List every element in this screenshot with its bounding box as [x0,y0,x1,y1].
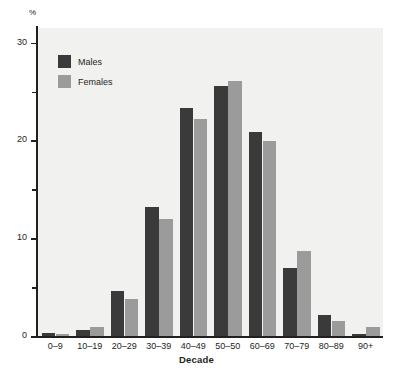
x-axis-tick-labels: 0–910–1920–2930–3940–4950–5060–6970–7980… [38,340,383,354]
legend: Males Females [58,53,138,93]
bar-males-30_39 [145,207,159,336]
y-axis-minor-tick-5 [32,287,37,288]
x-axis-line [36,336,383,338]
bar-group [352,28,380,336]
x-axis-tick-label: 50–50 [211,340,246,352]
legend-label-females: Females [78,77,113,87]
y-axis-tick-10: 10 [31,238,38,240]
bar-group [145,28,173,336]
y-axis-tick-label-30: 30 [17,37,27,48]
legend-swatch-females-icon [58,75,71,88]
bar-females-10_19 [90,327,104,336]
y-axis-tick-label-20: 20 [17,134,27,145]
y-axis-tick-label-10: 10 [17,232,27,243]
x-axis-tick-label: 40–49 [176,340,211,352]
legend-swatch-males-icon [58,55,71,68]
bar-males-80_89 [318,315,332,336]
bar-females-30_39 [159,219,173,336]
bar-group [249,28,277,336]
bar-females-80_89 [332,321,346,336]
bar-females-70_79 [297,251,311,336]
bar-chart-figure: % 0102030 0–910–1920–2930–3940–4950–5060… [0,0,393,373]
x-axis-tick-label: 90+ [349,340,384,352]
bar-females-90+ [366,327,380,336]
bar-group [180,28,208,336]
y-axis-minor-tick-25 [32,92,37,93]
y-axis-tick-label-0: 0 [22,330,27,341]
x-axis-tick-label: 30–39 [142,340,177,352]
bar-males-20_29 [111,291,125,336]
x-axis-tick-label: 80–89 [314,340,349,352]
y-axis-minor-tick-15 [32,189,37,190]
x-axis-tick-label: 70–79 [280,340,315,352]
x-axis-tick-label: 60–69 [245,340,280,352]
legend-item-males: Males [58,53,138,70]
bar-males-60_69 [249,132,263,336]
bar-females-20_29 [125,299,139,336]
legend-item-females: Females [58,73,138,90]
x-axis-title: Decade [0,354,393,365]
bar-females-60_69 [263,141,277,336]
legend-label-males: Males [78,57,102,67]
x-axis-tick-label: 10–19 [73,340,108,352]
bar-males-50_50 [214,86,228,336]
bar-group [214,28,242,336]
bar-group [318,28,346,336]
y-axis-tick-30: 30 [31,43,38,45]
y-axis-unit-label: % [29,8,36,17]
bar-males-40_49 [180,108,194,336]
bar-group [283,28,311,336]
x-axis-tick-label: 20–29 [107,340,142,352]
bar-females-50_50 [228,81,242,336]
bar-males-70_79 [283,268,297,336]
bar-females-40_49 [194,119,208,336]
x-axis-tick-label: 0–9 [38,340,73,352]
y-axis-tick-20: 20 [31,140,38,142]
